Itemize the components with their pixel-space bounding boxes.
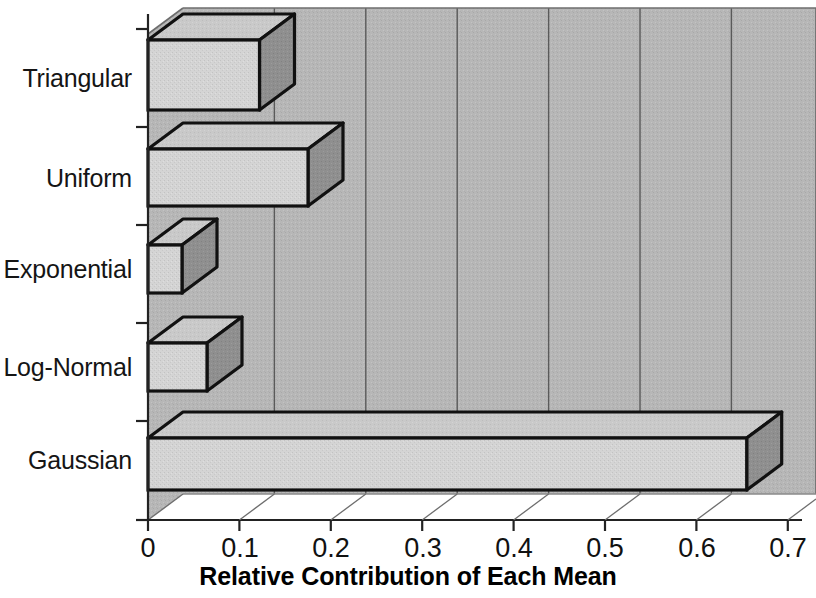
y-axis-label-uniform: Uniform xyxy=(0,164,132,193)
x-axis-ticks xyxy=(148,520,788,531)
x-tick-label-4: 0.4 xyxy=(478,533,550,564)
bar-triangular[interactable] xyxy=(148,14,295,110)
bar-front-face xyxy=(148,438,747,490)
y-axis-label-triangular: Triangular xyxy=(0,64,132,93)
y-axis-label-exponential: Exponential xyxy=(0,255,132,284)
x-tick-label-3: 0.3 xyxy=(387,533,459,564)
bar-front-face xyxy=(148,149,308,206)
x-tick-label-0: 0 xyxy=(118,533,178,564)
bar-uniform[interactable] xyxy=(148,123,343,206)
bar-front-face xyxy=(148,40,260,110)
y-axis-ticks xyxy=(136,29,148,520)
bar-front-face xyxy=(148,343,207,391)
x-tick-label-6: 0.6 xyxy=(661,533,733,564)
x-tick-label-1: 0.1 xyxy=(204,533,276,564)
x-tick-label-2: 0.2 xyxy=(295,533,367,564)
bar-front-face xyxy=(148,245,182,293)
x-axis-title: Relative Contribution of Each Mean xyxy=(0,562,816,591)
bar-chart: Triangular Uniform Exponential Log-Norma… xyxy=(0,0,816,598)
plot-floor xyxy=(148,494,816,520)
y-axis-label-log-normal: Log-Normal xyxy=(0,353,132,382)
bar-top-face xyxy=(148,412,782,438)
x-tick-label-7: 0.7 xyxy=(752,533,816,564)
x-tick-label-5: 0.5 xyxy=(569,533,641,564)
bar-gaussian[interactable] xyxy=(148,412,782,490)
y-axis-label-gaussian: Gaussian xyxy=(0,446,132,475)
